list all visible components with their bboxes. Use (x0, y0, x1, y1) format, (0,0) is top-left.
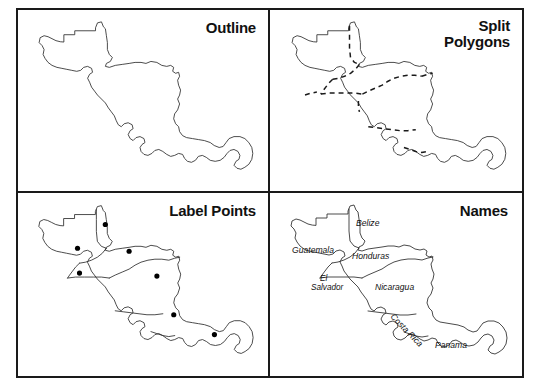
country-label-elsalvador-line1: El (320, 274, 327, 283)
coastline-group (39, 22, 253, 169)
label-point-guatemala[interactable] (75, 246, 80, 251)
map-names-svg: Belize Guatemala Honduras El Salvador Ni… (270, 193, 522, 376)
country-label-nicaragua: Nicaragua (375, 282, 414, 292)
coastline-group (39, 206, 253, 354)
figure-root: Outline Split Polygons (0, 0, 540, 390)
label-point-belize[interactable] (103, 222, 108, 227)
label-point-costarica[interactable] (171, 312, 176, 317)
boundary-guatemala-elsalvador (321, 79, 333, 94)
panel-title-outline: Outline (206, 20, 256, 36)
country-label-guatemala: Guatemala (292, 245, 334, 255)
country-label-honduras: Honduras (352, 251, 390, 261)
map-label-points-svg (18, 193, 268, 376)
map-outline-svg (18, 10, 268, 191)
panel-grid: Outline Split Polygons (16, 8, 524, 378)
panel-label-points[interactable]: Label Points (18, 193, 270, 376)
label-point-nicaragua[interactable] (154, 273, 159, 278)
label-point-honduras[interactable] (127, 249, 132, 254)
panel-outline[interactable]: Outline (18, 10, 270, 193)
country-label-elsalvador-line2: Salvador (311, 283, 344, 292)
central-america-outline (39, 22, 253, 169)
boundary-guatemala-elsalvador (68, 263, 80, 278)
country-label-belize: Belize (356, 218, 380, 228)
panel-names[interactable]: Names Belize Guatemala Hondura (270, 193, 522, 376)
label-point-panama[interactable] (212, 332, 217, 337)
label-point-elsalvador[interactable] (77, 271, 82, 276)
panel-title-split-polygons: Split Polygons (444, 18, 510, 50)
country-label-panama: Panama (435, 340, 467, 350)
panel-title-label-points: Label Points (169, 203, 256, 219)
boundary-guatemala-mexico-west (305, 92, 317, 95)
panel-split-polygons[interactable]: Split Polygons (270, 10, 522, 193)
central-america-outline (39, 206, 253, 354)
panel-title-names: Names (460, 203, 508, 219)
